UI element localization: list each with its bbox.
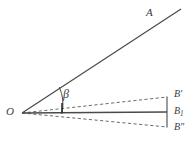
label-point-B-double-prime: B″ <box>174 122 184 132</box>
geometry-figure: A O β B′ B1 B″ <box>0 0 194 142</box>
label-point-B1: B1 <box>174 106 184 118</box>
label-point-B1-subscript: 1 <box>180 110 184 118</box>
label-vertex-O: O <box>6 106 14 117</box>
label-point-B-prime: B′ <box>174 89 182 99</box>
figure-canvas <box>0 0 194 142</box>
line-OB-double-prime <box>22 113 167 127</box>
label-angle-beta: β <box>63 88 69 100</box>
label-point-A: A <box>146 7 153 18</box>
ray-OA <box>22 9 181 113</box>
line-OB1 <box>22 112 167 113</box>
